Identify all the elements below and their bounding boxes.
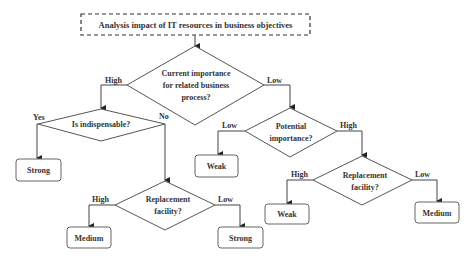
outcome-text: Weak (277, 210, 297, 219)
outcome-text: Weak (207, 162, 227, 171)
arrow-repl-left-low (215, 205, 240, 226)
flowchart: Analysis impact of IT resources in busin… (0, 0, 474, 262)
edge-label-low: Low (222, 121, 237, 130)
decision-text: Potential (276, 122, 307, 131)
decision-text: Replacement (146, 195, 191, 204)
edge-label-high: High (105, 76, 122, 85)
edge-label-low: Low (415, 170, 430, 179)
decision-indispensable: Is indispensable? (38, 109, 165, 141)
decision-text: Current importance (162, 69, 231, 78)
arrow-repl-left-high (89, 205, 115, 226)
outcome-strong-1: Strong (16, 159, 61, 181)
edge-label-high: High (92, 195, 109, 204)
outcome-text: Medium (423, 209, 452, 218)
title-text: Analysis impact of IT resources in busin… (99, 20, 294, 30)
outcome-text: Strong (27, 166, 50, 175)
arrow-repl-right-high (287, 180, 313, 203)
outcome-medium-2: Medium (415, 202, 459, 223)
outcome-text: Medium (75, 234, 104, 243)
edge-label-yes: Yes (33, 113, 45, 122)
decision-text: Replacement (343, 171, 388, 180)
edge-label-low: Low (218, 195, 233, 204)
decision-text: process? (181, 93, 210, 102)
decision-replacement-left: Replacement facility? (115, 181, 215, 230)
decision-replacement-right: Replacement facility? (313, 156, 412, 205)
arrow-current-low (264, 85, 290, 107)
arrow-indisp-yes (37, 124, 38, 158)
outcome-text: Strong (229, 234, 252, 243)
edge-label-low: Low (267, 76, 282, 85)
title-box: Analysis impact of IT resources in busin… (81, 14, 310, 35)
decision-text: Is indispensable? (72, 120, 130, 129)
decision-potential-importance: Potential importance? (245, 108, 337, 157)
decision-text: facility? (351, 183, 379, 192)
edge-label-high: High (291, 170, 308, 179)
outcome-weak-2: Weak (265, 204, 309, 224)
arrow-potential-high (337, 131, 362, 155)
outcome-weak-1: Weak (195, 155, 238, 177)
decision-text: for related business (163, 81, 229, 90)
arrow-potential-low (218, 131, 245, 154)
arrow-current-high (101, 85, 127, 108)
edge-label-no: No (159, 112, 169, 121)
edge-label-high: High (340, 121, 357, 130)
outcome-strong-2: Strong (218, 227, 263, 248)
decision-current-importance: Current importance for related business … (127, 46, 264, 125)
decision-text: facility? (154, 207, 182, 216)
arrow-repl-right-low (412, 180, 437, 201)
decision-text: importance? (269, 134, 312, 143)
outcome-medium-1: Medium (67, 227, 111, 248)
